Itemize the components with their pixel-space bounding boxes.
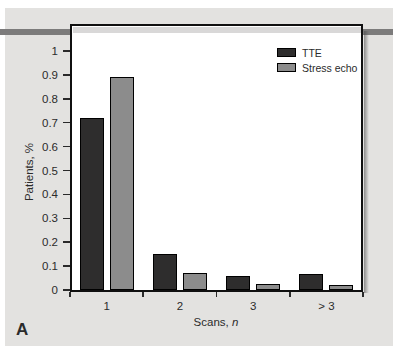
y-axis-tick-label: 0.1: [24, 260, 58, 272]
y-axis-tick: [63, 122, 71, 124]
y-axis-tick: [63, 74, 71, 76]
bar-stress-echo-1: [110, 77, 134, 290]
bar-stress-echo-3: [256, 284, 280, 290]
legend-item-stress-echo: Stress echo: [277, 60, 357, 75]
x-category-label: > 3: [304, 300, 348, 312]
y-axis-title: Patients, %: [23, 143, 35, 201]
y-axis-tick-label: 0.2: [24, 236, 58, 248]
legend-item-tte: TTE: [277, 45, 357, 60]
x-axis-title-text: Scans,: [194, 316, 232, 328]
x-category-label: 1: [85, 300, 129, 312]
y-axis-tick-label: 0.8: [24, 93, 58, 105]
y-axis-tick: [63, 265, 71, 267]
x-axis-tick: [289, 292, 291, 298]
panel-label: A: [16, 320, 28, 340]
bar-tte-1: [80, 118, 104, 290]
x-axis-tick: [216, 292, 218, 298]
x-category-label: 2: [158, 300, 202, 312]
y-axis-tick: [63, 50, 71, 52]
y-axis-tick: [63, 170, 71, 172]
x-axis-title: Scans, n: [194, 316, 239, 328]
bar-tte->3: [299, 274, 323, 290]
legend-label-stress-echo: Stress echo: [302, 62, 357, 74]
y-axis-tick-label: 0.3: [24, 212, 58, 224]
bar-stress-echo->3: [329, 285, 353, 290]
x-category-label: 3: [231, 300, 275, 312]
y-axis-tick: [63, 241, 71, 243]
y-axis-tick: [63, 218, 71, 220]
bar-tte-2: [153, 254, 177, 290]
legend-swatch-stress-echo: [277, 63, 296, 72]
y-axis-tick: [63, 146, 71, 148]
y-axis-tick: [63, 194, 71, 196]
y-axis-tick-label: 0: [24, 284, 58, 296]
x-axis-tick: [142, 292, 144, 298]
legend-label-tte: TTE: [302, 47, 322, 59]
bar-tte-3: [226, 276, 250, 290]
x-axis-tick: [69, 292, 71, 298]
y-axis-tick-label: 0.9: [24, 69, 58, 81]
x-axis-title-variable: n: [232, 316, 238, 328]
legend: TTE Stress echo: [277, 45, 357, 75]
x-axis-tick: [362, 292, 364, 298]
figure-panel: 00.10.20.30.40.50.60.70.80.91123> 3 TTE …: [0, 0, 393, 352]
y-axis-tick-label: 1: [24, 45, 58, 57]
legend-swatch-tte: [277, 48, 296, 57]
bar-stress-echo-2: [183, 273, 207, 290]
y-axis-tick: [63, 98, 71, 100]
y-axis-tick-label: 0.7: [24, 117, 58, 129]
